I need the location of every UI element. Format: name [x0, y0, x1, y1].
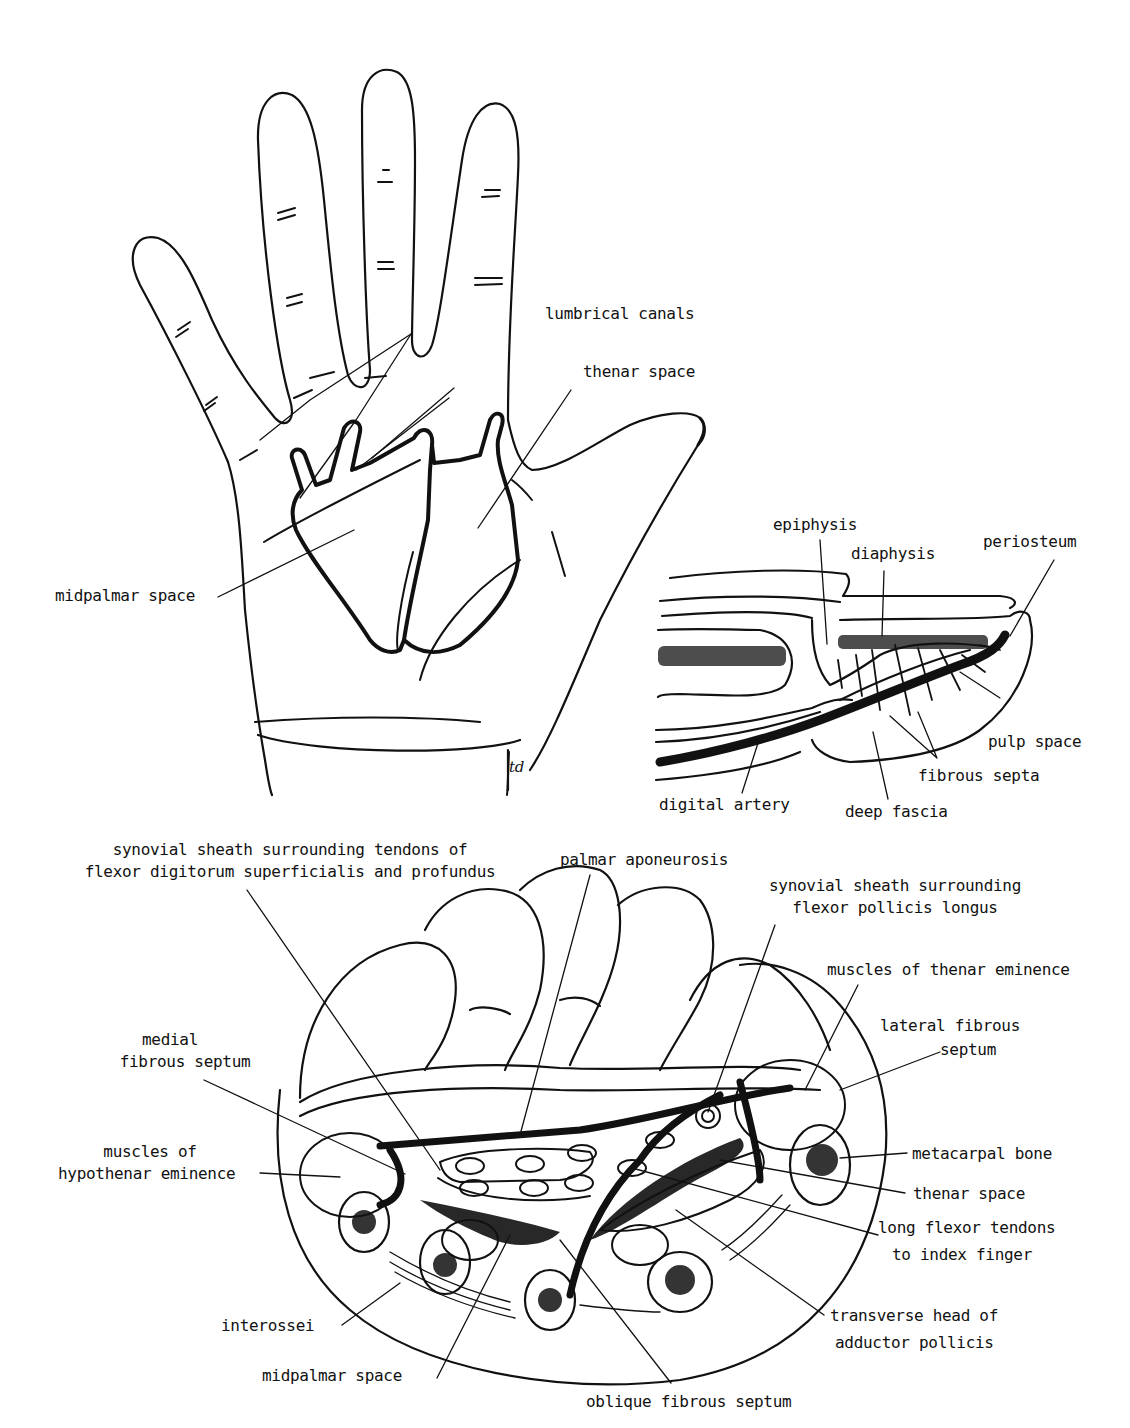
label-lumbrical-canals: lumbrical canals: [545, 304, 694, 324]
label-deep-fascia: deep fascia: [845, 802, 948, 822]
label-long-flexor-line2: to index finger: [892, 1245, 1032, 1265]
label-transverse-head-line1: transverse head of: [830, 1306, 998, 1326]
label-midpalmar-space-a: midpalmar space: [55, 586, 195, 606]
label-synovial-fpl-line2: flexor pollicis longus: [745, 898, 1045, 918]
palmar-spaces-outline: [292, 414, 518, 652]
label-hypothenar-line2: hypothenar eminence: [58, 1164, 235, 1184]
label-fibrous-septa: fibrous septa: [918, 766, 1039, 786]
label-synovial-fpl-line1: synovial sheath surrounding: [745, 876, 1045, 896]
label-epiphysis: epiphysis: [773, 515, 857, 535]
label-synovial-fds-line2: flexor digitorum superficialis and profu…: [50, 862, 530, 882]
label-diaphysis: diaphysis: [851, 544, 935, 564]
bone-texture: [658, 635, 988, 666]
label-pulp-space: pulp space: [988, 732, 1081, 752]
cross-section-outline: [278, 866, 887, 1384]
anatomy-illustration: [0, 0, 1130, 1428]
label-lateral-septum-line1: lateral fibrous: [860, 1016, 1020, 1036]
label-thenar-space-c: thenar space: [913, 1184, 1025, 1204]
label-interossei: interossei: [221, 1316, 314, 1336]
label-medial-septum-line2: fibrous septum: [95, 1052, 275, 1072]
artist-signature: td: [509, 757, 524, 777]
label-metacarpal-bone: metacarpal bone: [912, 1144, 1052, 1164]
label-hypothenar-line1: muscles of: [60, 1142, 240, 1162]
label-transverse-head-line2: adductor pollicis: [835, 1333, 994, 1353]
label-thenar-space-a: thenar space: [583, 362, 695, 382]
figure-b-leader-lines: [742, 540, 1054, 799]
hand-creases: [176, 170, 565, 680]
label-digital-artery: digital artery: [659, 795, 790, 815]
label-periosteum: periosteum: [983, 532, 1076, 552]
label-thenar-muscles: muscles of thenar eminence: [827, 960, 1070, 980]
label-medial-septum-line1: medial: [95, 1030, 245, 1050]
label-long-flexor-line1: long flexor tendons: [878, 1218, 1055, 1238]
label-synovial-fds-line1: synovial sheath surrounding tendons of: [60, 840, 520, 860]
label-palmar-aponeurosis: palmar aponeurosis: [560, 850, 728, 870]
label-oblique-septum: oblique fibrous septum: [586, 1392, 791, 1412]
label-lateral-septum-line2: septum: [940, 1040, 996, 1060]
label-midpalmar-space-c: midpalmar space: [262, 1366, 402, 1386]
